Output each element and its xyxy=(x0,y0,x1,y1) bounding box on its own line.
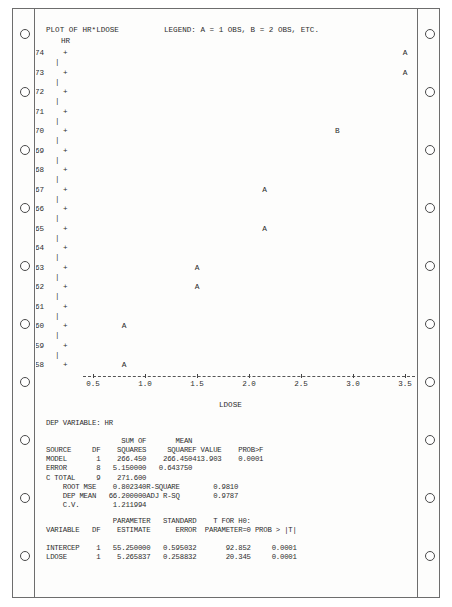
y-tick-mark: + xyxy=(63,244,68,252)
y-tick-mark: + xyxy=(63,166,68,174)
y-tick-label: 70 xyxy=(36,127,44,135)
y-tick-mark: + xyxy=(63,88,68,96)
y-tick-mark: + xyxy=(63,225,68,233)
sprocket-hole xyxy=(425,377,435,387)
x-tick-label: 3.0 xyxy=(341,380,365,388)
y-axis-connector: | xyxy=(55,156,60,164)
plot-point-a: A xyxy=(193,264,201,272)
sprocket-hole xyxy=(425,261,435,271)
x-axis-tick-mark xyxy=(93,374,94,378)
parameter-estimates-table: PARAMETER STANDARD T FOR H0: VARIABLE DF… xyxy=(46,517,297,562)
y-tick-label: 58 xyxy=(36,361,44,369)
y-tick-label: 63 xyxy=(36,264,44,272)
sprocket-hole xyxy=(20,29,30,39)
y-tick-label: 73 xyxy=(36,69,44,77)
x-axis-tick-mark xyxy=(353,374,354,378)
y-tick-label: 72 xyxy=(36,88,44,96)
y-tick-mark: + xyxy=(63,361,68,369)
printed-content: PLOT OF HR*LDOSE LEGEND: A = 1 OBS, B = … xyxy=(36,9,416,597)
plot-point-a: A xyxy=(261,225,269,233)
y-axis-connector: | xyxy=(55,97,60,105)
plot-point-a: A xyxy=(120,322,128,330)
sprocket-margin-right xyxy=(417,9,439,597)
sprocket-hole xyxy=(20,145,30,155)
x-tick-label: 0.5 xyxy=(81,380,105,388)
y-tick-label: 68 xyxy=(36,166,44,174)
x-tick-label: 2.0 xyxy=(237,380,261,388)
x-axis-tick-mark xyxy=(301,374,302,378)
y-axis-name: HR xyxy=(61,37,70,45)
plot-point-a: A xyxy=(193,283,201,291)
sprocket-margin-left xyxy=(13,9,35,597)
y-tick-label: 66 xyxy=(36,205,44,213)
y-tick-mark: + xyxy=(63,147,68,155)
plot-point-a: A xyxy=(401,49,409,57)
y-axis-connector: | xyxy=(55,175,60,183)
y-axis-connector: | xyxy=(55,292,60,300)
sprocket-hole xyxy=(20,203,30,213)
sprocket-hole xyxy=(425,435,435,445)
y-axis-connector: | xyxy=(55,214,60,222)
sprocket-hole xyxy=(425,319,435,329)
sprocket-hole xyxy=(20,377,30,387)
x-axis-tick-mark xyxy=(145,374,146,378)
y-axis-connector: | xyxy=(55,117,60,125)
y-axis-connector: | xyxy=(55,331,60,339)
y-tick-mark: + xyxy=(63,127,68,135)
y-tick-mark: + xyxy=(63,283,68,291)
y-axis-connector: | xyxy=(55,273,60,281)
printout-page: PLOT OF HR*LDOSE LEGEND: A = 1 OBS, B = … xyxy=(0,0,452,607)
x-tick-label: 1.5 xyxy=(185,380,209,388)
y-tick-mark: + xyxy=(63,264,68,272)
x-axis-tick-mark xyxy=(197,374,198,378)
y-tick-label: 64 xyxy=(36,244,44,252)
sprocket-hole xyxy=(20,261,30,271)
sprocket-hole xyxy=(425,145,435,155)
x-tick-label: 3.5 xyxy=(393,380,416,388)
paper-sheet: PLOT OF HR*LDOSE LEGEND: A = 1 OBS, B = … xyxy=(12,8,440,598)
y-tick-mark: + xyxy=(63,342,68,350)
y-tick-label: 61 xyxy=(36,303,44,311)
y-axis-connector: | xyxy=(55,195,60,203)
y-axis-connector: | xyxy=(55,351,60,359)
y-tick-mark: + xyxy=(63,49,68,57)
x-axis-tick-mark xyxy=(249,374,250,378)
y-tick-label: 71 xyxy=(36,108,44,116)
y-axis-connector: | xyxy=(55,234,60,242)
y-axis-connector: | xyxy=(55,253,60,261)
y-tick-mark: + xyxy=(63,322,68,330)
y-tick-label: 69 xyxy=(36,147,44,155)
y-tick-label: 59 xyxy=(36,342,44,350)
x-tick-label: 1.0 xyxy=(133,380,157,388)
plot-point-a: A xyxy=(261,186,269,194)
y-tick-label: 74 xyxy=(36,49,44,57)
sprocket-hole xyxy=(425,493,435,503)
y-tick-mark: + xyxy=(63,186,68,194)
y-axis-connector: | xyxy=(55,136,60,144)
y-tick-label: 65 xyxy=(36,225,44,233)
y-tick-mark: + xyxy=(63,205,68,213)
sprocket-hole xyxy=(20,319,30,329)
y-tick-label: 67 xyxy=(36,186,44,194)
x-axis-name: LDOSE xyxy=(219,401,242,409)
plot-point-a: A xyxy=(120,361,128,369)
y-tick-label: 60 xyxy=(36,322,44,330)
scatter-plot: HR 74+|73+|72+|71+|70+|69+|68+|67+|66+|6… xyxy=(36,9,416,409)
y-axis-connector: | xyxy=(55,78,60,86)
sprocket-hole xyxy=(425,203,435,213)
sprocket-hole xyxy=(20,87,30,97)
sprocket-hole xyxy=(425,29,435,39)
sprocket-hole xyxy=(425,87,435,97)
y-tick-mark: + xyxy=(63,69,68,77)
y-tick-mark: + xyxy=(63,108,68,116)
y-axis-connector: | xyxy=(55,312,60,320)
plot-point-a: A xyxy=(401,69,409,77)
y-tick-mark: + xyxy=(63,303,68,311)
x-tick-label: 2.5 xyxy=(289,380,313,388)
sprocket-hole xyxy=(425,551,435,561)
x-axis-tick-mark xyxy=(405,374,406,378)
y-axis-connector: | xyxy=(55,58,60,66)
sprocket-hole xyxy=(20,493,30,503)
plot-point-b: B xyxy=(333,127,341,135)
sprocket-hole xyxy=(20,551,30,561)
